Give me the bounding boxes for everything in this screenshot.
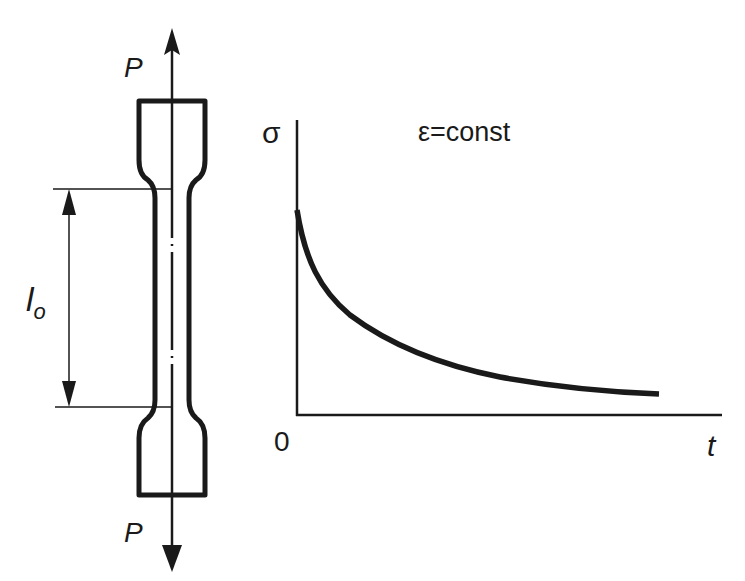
dimension-arrow-up-icon	[62, 189, 76, 215]
dimension-arrow-down-icon	[62, 381, 76, 407]
gauge-length-symbol: l	[26, 280, 34, 318]
relaxation-curve	[297, 210, 659, 394]
chart-title: ε=const	[418, 119, 510, 146]
origin-label: 0	[274, 428, 290, 456]
load-label-top: P	[124, 54, 143, 82]
gauge-length-subscript: o	[34, 299, 46, 324]
gauge-length-label: lo	[26, 282, 46, 323]
y-axis-label: σ	[262, 118, 281, 148]
chart-axes	[296, 120, 722, 416]
x-axis-label: t	[707, 431, 715, 461]
load-label-bottom: P	[124, 519, 143, 547]
arrow-down-icon	[162, 545, 182, 572]
diagram-canvas	[0, 0, 745, 581]
